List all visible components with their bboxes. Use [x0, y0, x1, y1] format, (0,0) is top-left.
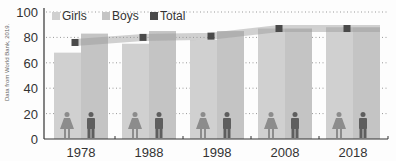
legend-swatch: [52, 12, 60, 20]
legend: GirlsBoysTotal: [52, 9, 185, 23]
y-tick-label: 100: [16, 5, 38, 20]
total-marker: [72, 39, 79, 46]
bar-chart: 02040608010019781988199820082018GirlsBoy…: [0, 0, 396, 161]
legend-label: Girls: [62, 9, 87, 23]
legend-label: Boys: [112, 9, 139, 23]
legend-swatch: [102, 12, 110, 20]
y-tick-label: 60: [24, 56, 38, 71]
y-tick-label: 20: [24, 107, 38, 122]
total-marker: [276, 25, 283, 32]
x-tick-label: 2018: [339, 145, 368, 160]
x-tick-label: 1978: [67, 145, 96, 160]
y-tick-label: 0: [31, 132, 38, 147]
x-tick-label: 2008: [271, 145, 300, 160]
x-tick-label: 1998: [203, 145, 232, 160]
total-marker: [140, 34, 147, 41]
legend-swatch: [150, 12, 158, 20]
total-marker: [208, 33, 215, 40]
x-tick-label: 1988: [135, 145, 164, 160]
legend-label: Total: [160, 9, 185, 23]
total-marker: [344, 25, 351, 32]
y-tick-label: 40: [24, 81, 38, 96]
y-tick-label: 80: [24, 30, 38, 45]
